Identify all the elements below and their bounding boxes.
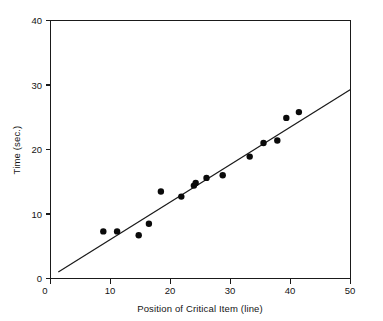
data-point <box>178 193 184 199</box>
y-axis-tick-labels: 0 10 20 30 40 <box>31 15 42 284</box>
data-point <box>260 140 266 146</box>
data-point <box>158 188 164 194</box>
y-tick-label-30: 30 <box>31 80 42 91</box>
x-axis-ticks <box>51 279 351 284</box>
chart-canvas: 0 10 20 30 40 0 10 20 30 40 50 Position … <box>0 0 383 321</box>
x-tick-label-20: 20 <box>165 285 176 296</box>
data-point <box>193 180 199 186</box>
data-point <box>100 228 106 234</box>
data-point <box>247 153 253 159</box>
data-point <box>114 228 120 234</box>
data-point <box>274 137 280 143</box>
plot-frame <box>50 20 351 279</box>
scatter-plot-figure: 0 10 20 30 40 0 10 20 30 40 50 Position … <box>0 0 383 321</box>
regression-line <box>58 90 350 273</box>
data-point <box>296 109 302 115</box>
x-tick-label-30: 30 <box>225 285 236 296</box>
y-tick-label-10: 10 <box>31 209 42 220</box>
y-tick-label-40: 40 <box>31 15 42 26</box>
data-point <box>203 175 209 181</box>
data-point <box>146 220 152 226</box>
x-axis-tick-labels: 0 10 20 30 40 50 <box>42 285 355 296</box>
x-tick-label-40: 40 <box>285 285 296 296</box>
data-point <box>283 115 289 121</box>
x-tick-label-0: 0 <box>42 285 47 296</box>
data-points-group <box>100 109 302 239</box>
x-tick-label-10: 10 <box>105 285 116 296</box>
y-tick-label-20: 20 <box>31 144 42 155</box>
data-point <box>220 172 226 178</box>
x-tick-label-50: 50 <box>345 285 356 296</box>
y-axis-ticks <box>46 21 51 279</box>
x-axis-title: Position of Critical Item (line) <box>137 303 263 314</box>
y-tick-label-0: 0 <box>37 273 42 284</box>
y-axis-title: Time (sec.) <box>11 126 22 175</box>
data-point <box>136 232 142 238</box>
